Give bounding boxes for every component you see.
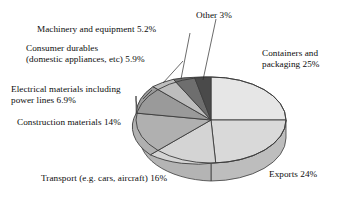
label-containers-line1: Containers and: [262, 48, 318, 59]
leader-line-other: [203, 19, 216, 80]
pie-slice-containers: [211, 77, 286, 120]
label-construction: Construction materials 14%: [17, 117, 121, 128]
leader-line-machinery: [181, 33, 190, 79]
label-electrical-line1: Electrical materials including: [11, 84, 121, 95]
label-other: Other 3%: [196, 10, 232, 21]
label-electrical-line2: power lines 6.9%: [11, 95, 76, 106]
label-consumer-line2: (domestic appliances, etc) 5.9%: [26, 54, 145, 65]
pie-chart-figure: Other 3% Machinery and equipment 5.2% Co…: [0, 0, 339, 197]
label-exports: Exports 24%: [269, 169, 317, 180]
label-consumer-line1: Consumer durables: [26, 43, 98, 54]
label-machinery: Machinery and equipment 5.2%: [37, 24, 156, 35]
label-transport: Transport (e.g. cars, aircraft) 16%: [41, 173, 167, 184]
label-containers-line2: packaging 25%: [262, 59, 320, 70]
